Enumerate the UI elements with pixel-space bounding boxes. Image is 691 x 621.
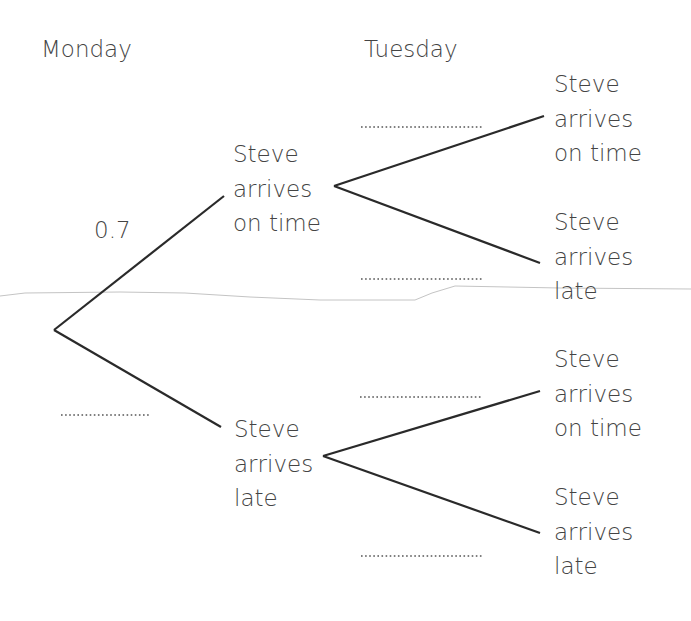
node-line: arrives xyxy=(554,102,642,137)
branch-monday-on-time xyxy=(54,196,224,330)
node-line: arrives xyxy=(234,447,313,482)
node-line: Steve xyxy=(554,480,633,515)
node-line: arrives xyxy=(554,377,642,412)
branch-tuesday-late-after-on-time xyxy=(334,186,540,263)
probability-monday-on-time: 0.7 xyxy=(94,213,131,248)
node-monday-late: Steve arrives late xyxy=(234,412,313,516)
node-line: late xyxy=(554,274,633,309)
node-line: late xyxy=(234,481,313,516)
header-monday: Monday xyxy=(41,32,132,67)
header-tuesday: Tuesday xyxy=(364,32,458,67)
node-line: on time xyxy=(233,206,321,241)
branch-tuesday-on-time-after-late xyxy=(323,391,540,456)
branch-tuesday-late-after-late xyxy=(323,456,540,533)
branch-monday-late xyxy=(54,330,221,427)
node-line: arrives xyxy=(554,515,633,550)
node-line: Steve xyxy=(234,412,313,447)
node-tuesday-on-time-after-late: Steve arrives on time xyxy=(554,342,642,446)
node-line: arrives xyxy=(554,240,633,275)
node-line: Steve xyxy=(554,205,633,240)
node-line: on time xyxy=(554,136,642,171)
node-line: arrives xyxy=(233,172,321,207)
node-tuesday-on-time-after-on-time: Steve arrives on time xyxy=(554,67,642,171)
node-line: late xyxy=(554,549,633,584)
node-line: Steve xyxy=(233,137,321,172)
node-line: on time xyxy=(554,411,642,446)
node-tuesday-late-after-late: Steve arrives late xyxy=(554,480,633,584)
node-line: Steve xyxy=(554,342,642,377)
node-tuesday-late-after-on-time: Steve arrives late xyxy=(554,205,633,309)
node-line: Steve xyxy=(554,67,642,102)
node-monday-on-time: Steve arrives on time xyxy=(233,137,321,241)
